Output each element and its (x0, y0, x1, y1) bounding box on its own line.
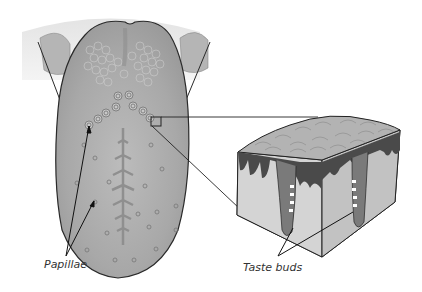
label-papillae: Papillae (44, 258, 87, 271)
tongue-diagram (0, 0, 422, 292)
magnified-section (237, 116, 400, 257)
label-taste-buds: Taste buds (243, 261, 302, 274)
